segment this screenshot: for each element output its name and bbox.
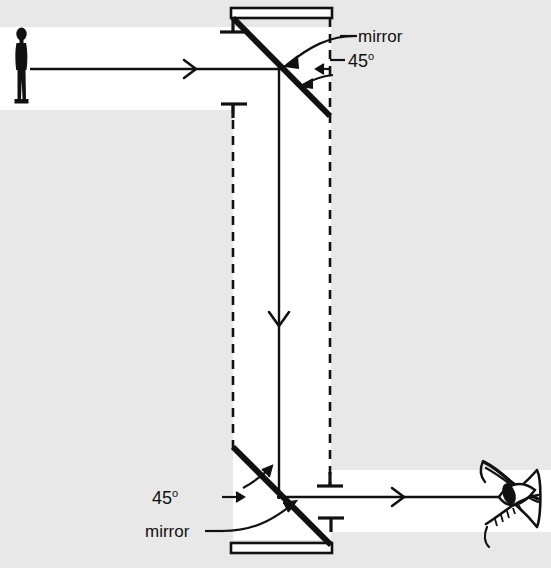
mirror-bottom-label: mirror xyxy=(145,522,190,541)
person-head xyxy=(16,28,26,41)
person-neck xyxy=(20,39,24,43)
figure-canvas: mirror 45o 45o mirror xyxy=(0,0,551,568)
mirror-bottom-backing xyxy=(231,543,332,553)
person-feet xyxy=(15,99,29,104)
ray-diagram-svg: mirror 45o 45o mirror xyxy=(0,0,551,568)
mirror-top-backing xyxy=(231,8,332,18)
person-torso xyxy=(15,43,27,70)
background-shading xyxy=(0,0,551,568)
mirror-top-label: mirror xyxy=(358,27,403,46)
